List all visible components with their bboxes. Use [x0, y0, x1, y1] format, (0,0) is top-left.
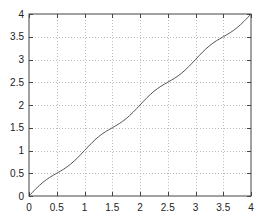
x-tick-label: 3 — [193, 202, 199, 213]
y-axis-tick-labels: 00.511.522.533.54 — [10, 9, 24, 202]
y-tick-label: 1 — [18, 145, 24, 156]
x-axis-tick-labels: 00.511.522.533.54 — [26, 202, 254, 213]
y-tick-label: 2 — [18, 100, 24, 111]
x-tick-label: 4 — [248, 202, 254, 213]
line-chart: 00.511.522.533.54 00.511.522.533.54 — [0, 0, 266, 216]
x-tick-label: 0 — [26, 202, 32, 213]
y-tick-label: 1.5 — [10, 122, 24, 133]
x-tick-label: 3.5 — [216, 202, 230, 213]
y-tick-label: 0.5 — [10, 168, 24, 179]
y-tick-label: 4 — [18, 9, 24, 20]
y-tick-label: 2.5 — [10, 77, 24, 88]
y-tick-label: 3 — [18, 54, 24, 65]
y-tick-label: 0 — [18, 191, 24, 202]
x-tick-label: 1 — [82, 202, 88, 213]
x-tick-label: 2 — [137, 202, 143, 213]
x-tick-label: 0.5 — [50, 202, 64, 213]
x-tick-label: 1.5 — [105, 202, 119, 213]
y-tick-label: 3.5 — [10, 31, 24, 42]
x-tick-label: 2.5 — [161, 202, 175, 213]
